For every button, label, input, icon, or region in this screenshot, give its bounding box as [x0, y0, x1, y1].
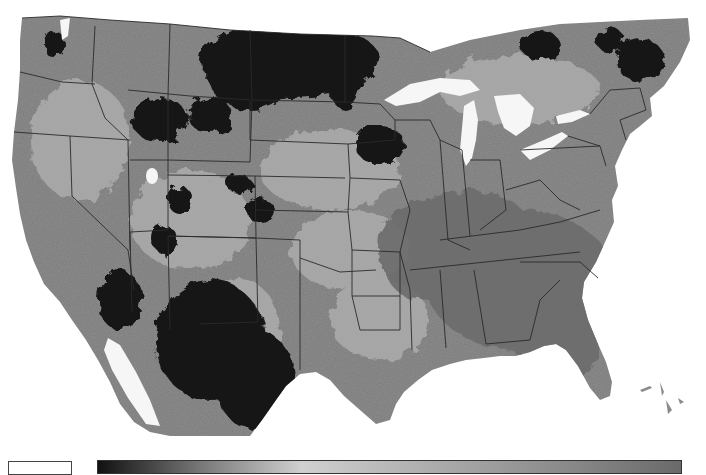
us-raster-map: [0, 0, 706, 440]
caribbean-islands: [640, 382, 684, 414]
colorbar-legend: [97, 460, 682, 474]
no-data-legend-swatch: [8, 461, 72, 475]
great-salt-lake: [146, 168, 158, 184]
land-mass: [0, 0, 706, 440]
colorbar-gradient: [98, 461, 681, 473]
